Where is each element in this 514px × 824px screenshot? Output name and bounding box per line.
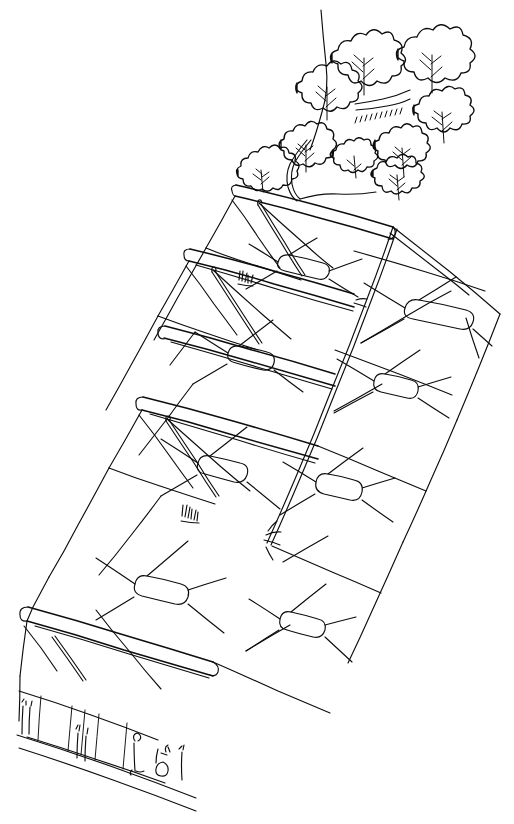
architectural-sketch-drawing: [0, 0, 514, 824]
sketch-canvas: [0, 0, 514, 824]
paper-background: [0, 0, 514, 824]
